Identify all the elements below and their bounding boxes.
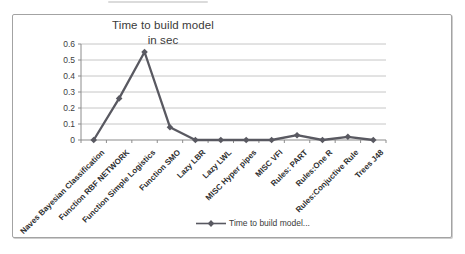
data-point-marker — [217, 137, 224, 144]
data-point-marker — [319, 137, 326, 144]
series-line — [94, 52, 374, 140]
chart-title-line-1: Time to build model — [13, 18, 313, 33]
y-tick-label: 0.5 — [49, 55, 75, 65]
data-point-marker — [370, 137, 377, 144]
y-tick-label: 0.6 — [49, 39, 75, 49]
data-point-marker — [268, 137, 275, 144]
y-tick-label: 0.1 — [49, 119, 75, 129]
data-point-marker — [294, 132, 301, 139]
y-tick-label: 0.2 — [49, 103, 75, 113]
data-point-marker — [243, 137, 250, 144]
scan-edge-artifact — [108, 1, 208, 3]
legend: Time to build model... — [196, 217, 310, 229]
y-tick-label: 0.4 — [49, 71, 75, 81]
y-tick-label: 0.3 — [49, 87, 75, 97]
chart-frame: Time to build model in sec 0.60.50.40.30… — [12, 14, 452, 238]
y-tick-label: 0 — [49, 135, 75, 145]
data-point-marker — [345, 134, 352, 141]
screenshot-canvas: { "chart_data": { "type": "line", "title… — [0, 0, 465, 254]
legend-label: Time to build model... — [229, 218, 310, 228]
legend-marker-icon — [196, 219, 226, 228]
